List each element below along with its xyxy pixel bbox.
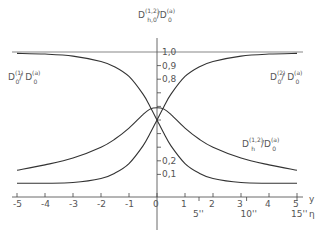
y-axis-title: D(1,2)h,0/D(a)0 (138, 7, 175, 23)
x2-axis-label: η (309, 209, 315, 219)
right-curve-label: D(2)0/ D(a)0 (270, 69, 302, 85)
line-chart: -5-4-3-2-1012345 5''10''15'' 0,10,20,80,… (0, 0, 325, 237)
x-tick-label: 3 (237, 199, 243, 209)
x-tick-label: 4 (265, 199, 271, 209)
x2-tick-label: 10'' (241, 209, 257, 219)
x-tick-label: -5 (13, 199, 22, 209)
x-tick-label: -4 (41, 199, 50, 209)
x2-tick-label: 5'' (193, 209, 204, 219)
x2-tick-label: 15'' (291, 209, 307, 219)
y-tick-label: 0,1 (162, 169, 176, 179)
y-tick-label: 0,8 (162, 74, 177, 84)
x-tick-label: 2 (209, 199, 215, 209)
x-tick-label: 5 (293, 199, 299, 209)
x-tick-label: 1 (181, 199, 187, 209)
x-axis-label: y (309, 194, 315, 204)
y-tick-label: 0,2 (162, 156, 176, 166)
y-tick-label: 0,9 (162, 61, 177, 71)
x-tick-label: -1 (125, 199, 134, 209)
x-ticks: -5-4-3-2-1012345 (13, 193, 299, 209)
x-tick-label: 0 (153, 199, 159, 209)
hump-curve-label: D(1,2)h/D(a)0 (242, 136, 279, 152)
x-tick-label: -3 (69, 199, 78, 209)
left-curve-label: D(1)0/ D(a)0 (8, 69, 40, 85)
x-tick-label: -2 (97, 199, 106, 209)
y-tick-label: 1,0 (162, 47, 177, 57)
